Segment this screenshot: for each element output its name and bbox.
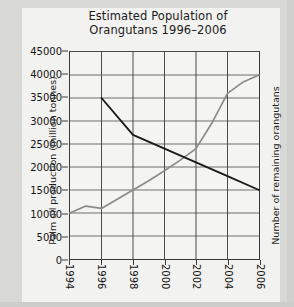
y-axis-right-title: Number of remaining orangutans: [270, 66, 281, 266]
y-tick-mark: [62, 213, 68, 214]
x-tick-label: 1994: [64, 264, 75, 289]
series-line: [101, 98, 259, 190]
y-tick-mark: [62, 236, 68, 237]
x-tick-mark: [228, 260, 229, 265]
y-tick-mark: [62, 190, 68, 191]
x-tick-label: 2004: [223, 264, 234, 289]
plot-area: [69, 51, 260, 260]
x-tick-label: 2002: [191, 264, 202, 289]
chart-title: Estimated Population ofOrangutans 1996–2…: [58, 9, 258, 37]
x-tick-label: 2006: [255, 264, 266, 289]
y-tick-mark: [62, 97, 68, 98]
y-tick-mark: [62, 51, 68, 52]
y-tick-mark: [62, 167, 68, 168]
y-tick-mark: [62, 120, 68, 121]
x-tick-label: 2000: [159, 264, 170, 289]
chart-title-line-1: Estimated Population of: [58, 9, 258, 23]
right-edge-strip: [287, 0, 294, 307]
y-tick-label: 45000: [30, 46, 62, 57]
y-axis-left-title: Palm oil production (million tonnes): [47, 61, 58, 261]
chart-container: Estimated Population ofOrangutans 1996–2…: [0, 0, 294, 307]
x-tick-mark: [260, 260, 261, 265]
x-tick-mark: [165, 260, 166, 265]
x-tick-label: 1998: [127, 264, 138, 289]
series-line: [70, 75, 259, 213]
x-axis-ticks: 1994199619982000200220042006: [69, 264, 260, 304]
data-lines: [70, 52, 259, 259]
chart-title-line-2: Orangutans 1996–2006: [58, 23, 258, 37]
x-tick-mark: [133, 260, 134, 265]
x-tick-mark: [101, 260, 102, 265]
y-tick-mark: [62, 143, 68, 144]
x-tick-mark: [196, 260, 197, 265]
x-tick-mark: [69, 260, 70, 265]
y-tick-mark: [62, 260, 68, 261]
x-tick-label: 1996: [95, 264, 106, 289]
y-tick-mark: [62, 74, 68, 75]
